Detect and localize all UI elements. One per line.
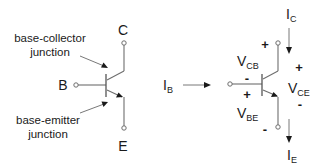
base-label: B [58, 77, 67, 93]
vbe-minus-sign: - [263, 122, 267, 137]
right-base-terminal [228, 82, 232, 86]
base-emitter-label-line1: base-emitter [16, 114, 80, 126]
vbe-label: VBE [237, 105, 258, 123]
base-collector-label-line2: junction [29, 46, 70, 58]
bjt-diagram: C B E base-collector junction base-emitt… [0, 0, 325, 167]
collector-terminal [122, 41, 126, 45]
left-transistor-symbol: C B E base-collector junction base-emitt… [14, 22, 128, 154]
vcb-plus-sign: + [261, 37, 269, 52]
base-emitter-pointer [80, 104, 104, 113]
right-transistor-symbol: IB IC IE + VCB - + VBE - + VCE [163, 6, 310, 165]
base-collector-pointer [80, 56, 104, 66]
right-emitter-arrow-icon [271, 92, 278, 97]
right-collector-diagonal [263, 71, 278, 79]
emitter-label: E [118, 138, 127, 154]
emitter-terminal [122, 126, 126, 130]
base-terminal [74, 83, 78, 87]
vcb-minus-sign: - [245, 71, 249, 86]
emitter-current-label: IE [287, 147, 297, 165]
collector-diagonal [107, 71, 124, 80]
collector-label: C [118, 22, 128, 38]
collector-current-arrow-icon [286, 47, 292, 54]
right-emitter-terminal [276, 125, 280, 129]
collector-current-label: IC [286, 6, 297, 24]
base-collector-label-line1: base-collector [14, 32, 86, 44]
vce-plus-sign: + [295, 60, 303, 75]
vcb-label: VCB [237, 53, 259, 71]
base-current-arrow-icon [204, 82, 211, 88]
vce-label: VCE [288, 80, 310, 98]
vce-minus-sign: - [298, 97, 302, 112]
base-current-label: IB [163, 77, 173, 95]
emitter-current-arrow-icon [286, 136, 292, 143]
vbe-plus-sign: + [243, 87, 251, 102]
base-emitter-label-line2: junction [27, 128, 68, 140]
right-collector-terminal [276, 41, 280, 45]
